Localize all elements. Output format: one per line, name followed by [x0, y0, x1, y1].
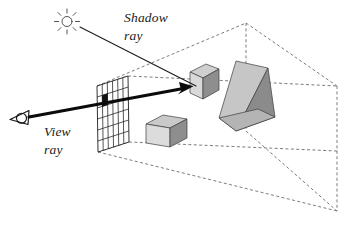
- sun-disc: [62, 17, 72, 27]
- shadow-ray-label-line1: Shadow: [124, 10, 168, 25]
- lower-box-left-face: [146, 124, 170, 147]
- upper-cube: [190, 64, 219, 99]
- eye-icon: [10, 111, 29, 125]
- view-ray-label: View ray: [44, 124, 71, 157]
- frustum-edge-bottom-right: [246, 131, 337, 211]
- sun-ray-nw: [58, 13, 61, 16]
- shadow-ray-label: Shadow ray: [124, 10, 168, 43]
- frustum-edge-bottom-left: [98, 152, 337, 211]
- sun-icon: [55, 9, 80, 34]
- view-ray-label-line1: View: [44, 124, 71, 139]
- sun-ray-ne: [73, 13, 76, 16]
- ray-tracing-figure: Shadow ray View ray: [0, 0, 341, 239]
- wedge-prism: [219, 61, 275, 131]
- sun-ray-sw: [58, 28, 61, 31]
- lower-box: [146, 115, 187, 147]
- shadow-ray-label-line2: ray: [124, 28, 143, 43]
- sun-ray-se: [73, 28, 76, 31]
- scene-svg: Shadow ray View ray: [0, 0, 341, 239]
- image-plane-grid[interactable]: [97, 76, 129, 152]
- view-ray-label-line2: ray: [44, 142, 63, 157]
- view-frustum: [97, 23, 337, 211]
- frustum-edge-top-left: [97, 23, 246, 86]
- eye-pupil: [17, 113, 27, 123]
